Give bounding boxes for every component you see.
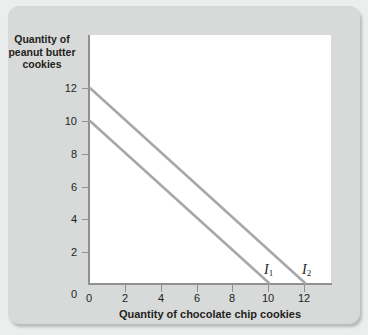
x-ticklabel-12: 12	[289, 292, 319, 304]
x-ticklabel-4: 4	[146, 292, 176, 304]
y-axis-title-line-3: cookies	[2, 58, 82, 71]
y-tick-8	[82, 154, 89, 155]
x-ticklabel-8: 8	[217, 292, 247, 304]
curve-label-i1-sub: 1	[269, 268, 274, 278]
y-tick-10	[82, 121, 89, 122]
y-ticklabel-4: 4	[47, 213, 77, 225]
x-axis-title: Quantity of chocolate chip cookies	[88, 308, 332, 320]
y-ticklabel-8: 8	[47, 148, 77, 160]
x-ticklabel-10: 10	[253, 292, 283, 304]
x-tick-10	[268, 285, 269, 292]
x-tick-8	[232, 285, 233, 292]
curve-label-i2-text: I	[302, 262, 307, 277]
y-tick-6	[82, 187, 89, 188]
y-ticklabel-2: 2	[47, 246, 77, 258]
y-ticklabel-10: 10	[47, 115, 77, 127]
figure-root: 12 10 8 6 4 2 0 0 2 4 6 8 10 12 Quantity…	[0, 0, 368, 335]
y-ticklabel-0: 0	[47, 288, 77, 300]
curve-label-i2-sub: 2	[307, 268, 312, 278]
curve-label-i2: I2	[302, 262, 311, 278]
x-ticklabel-2: 2	[110, 292, 140, 304]
y-axis-line	[88, 35, 90, 284]
y-tick-12	[82, 88, 89, 89]
y-axis-title-line-1: Quantity of	[2, 33, 82, 46]
curve-label-i1-text: I	[264, 262, 269, 277]
y-ticklabel-12: 12	[47, 82, 77, 94]
x-tick-2	[125, 285, 126, 292]
y-axis-title: Quantity of peanut butter cookies	[2, 33, 82, 71]
y-axis-title-line-2: peanut butter	[2, 46, 82, 59]
y-tick-4	[82, 219, 89, 220]
x-tick-4	[161, 285, 162, 292]
x-tick-6	[197, 285, 198, 292]
x-tick-12	[304, 285, 305, 292]
plot-area	[89, 35, 331, 283]
x-ticklabel-0: 0	[74, 292, 104, 304]
y-tick-2	[82, 252, 89, 253]
y-ticklabel-6: 6	[47, 181, 77, 193]
x-ticklabel-6: 6	[182, 292, 212, 304]
curve-label-i1: I1	[264, 262, 273, 278]
